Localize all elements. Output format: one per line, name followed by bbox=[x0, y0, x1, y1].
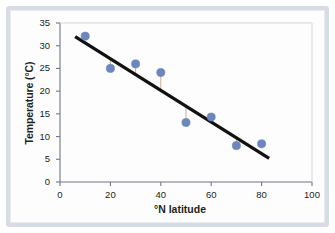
x-tick-label-0: 0 bbox=[48, 189, 72, 200]
figure-container: 05101520253035020406080100 Temperature (… bbox=[0, 0, 335, 233]
y-tick-label-0: 0 bbox=[28, 176, 50, 187]
x-tick-label-60: 60 bbox=[199, 189, 223, 200]
data-point[interactable] bbox=[81, 32, 89, 40]
data-point[interactable] bbox=[157, 68, 165, 76]
y-axis-title: Temperature (°C) bbox=[23, 33, 35, 173]
x-tick-label-80: 80 bbox=[250, 189, 274, 200]
x-axis-title: °N latitude bbox=[55, 203, 305, 215]
data-point[interactable] bbox=[258, 140, 266, 148]
data-point[interactable] bbox=[182, 118, 190, 126]
data-point[interactable] bbox=[207, 113, 215, 121]
scatter-chart: 05101520253035020406080100 Temperature (… bbox=[0, 0, 335, 233]
y-tick-label-35: 35 bbox=[28, 17, 50, 28]
data-points-group bbox=[81, 32, 266, 150]
data-point[interactable] bbox=[106, 64, 114, 72]
x-tick-label-100: 100 bbox=[300, 189, 324, 200]
x-tick-label-20: 20 bbox=[98, 189, 122, 200]
trendline bbox=[75, 37, 269, 159]
x-tick-label-40: 40 bbox=[149, 189, 173, 200]
trendline-group bbox=[75, 37, 269, 159]
data-point[interactable] bbox=[232, 142, 240, 150]
data-point[interactable] bbox=[132, 60, 140, 68]
